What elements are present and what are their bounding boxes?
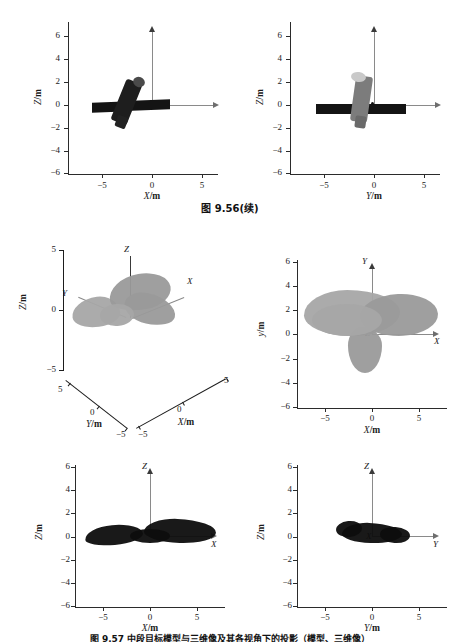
z-arrow-head-icon xyxy=(369,468,375,474)
y-tick xyxy=(286,173,290,174)
x-tick xyxy=(372,408,373,412)
panel-mid-left-3d: 5 0 −5 Z/m 5 0 −5 Y/m −5 0 5 X/m Z Y xyxy=(14,232,244,447)
y-tick-label: 2 xyxy=(268,304,290,314)
y-tick-label: −2 xyxy=(258,122,282,132)
x-tick xyxy=(103,607,104,611)
y-tick-label: 5 xyxy=(58,384,63,394)
x-tick-label: 0 xyxy=(360,612,384,622)
y-tick-label: −2 xyxy=(46,554,70,564)
z-axis-title: Z/m xyxy=(18,280,28,324)
y-tick-label: 0 xyxy=(48,531,70,541)
y-tick xyxy=(293,310,297,311)
x-tick-label: 5 xyxy=(412,180,436,190)
y-axis-title: Z/m xyxy=(256,510,266,554)
x-tick xyxy=(325,607,326,611)
y-axis-line xyxy=(75,465,76,607)
y-tick xyxy=(293,560,297,561)
y-axis-arrow-label: Y xyxy=(62,288,67,298)
y-tick-label: 2 xyxy=(270,507,292,517)
y-tick-label: 6 xyxy=(270,461,292,471)
y-tick-label: −6 xyxy=(266,401,290,411)
y-axis-title: Z/m xyxy=(33,75,43,119)
y-tick-label: 4 xyxy=(268,280,290,290)
x-tick xyxy=(324,174,325,178)
y-tick-label: −6 xyxy=(268,600,292,610)
y-axis-unit: /m xyxy=(33,89,43,100)
x-tick-label: −5 xyxy=(313,612,337,622)
y-tick xyxy=(293,583,297,584)
x-tick xyxy=(419,607,420,611)
x-axis-arrow-label: X xyxy=(434,336,440,346)
y-tick-label: 0 xyxy=(270,531,292,541)
x-tick xyxy=(152,174,153,178)
x-tick xyxy=(150,607,151,611)
y-axis-title-text: Z xyxy=(255,100,265,105)
x-tick xyxy=(202,174,203,178)
z-axis-unit: /m xyxy=(18,294,28,305)
z-arrow-head-icon xyxy=(371,26,377,32)
satellite-marker-dot xyxy=(371,102,374,105)
x-tick xyxy=(325,408,326,412)
panel-bottom-left: 6 4 2 0 −2 −4 −6 −5 0 5 Z/m X/m Z X xyxy=(30,455,230,625)
x-arrow-head-icon xyxy=(213,102,219,108)
x-axis-line xyxy=(68,174,218,175)
x-axis-arrow-label: X xyxy=(211,539,217,549)
x-tick xyxy=(182,402,185,406)
x-tick xyxy=(197,607,198,611)
z-axis-arrow-label: Z xyxy=(142,461,147,471)
y-tick-label: 0 xyxy=(268,328,290,338)
y-tick xyxy=(293,334,297,335)
y-tick-label: −4 xyxy=(268,577,292,587)
y-tick xyxy=(64,82,68,83)
y-tick xyxy=(293,537,297,538)
y-tick xyxy=(293,490,297,491)
y-tick-label: 4 xyxy=(270,484,292,494)
y-tick-label: −6 xyxy=(46,600,70,610)
point-cloud-blob xyxy=(312,304,382,336)
y-tick xyxy=(286,105,290,106)
satellite-model xyxy=(320,70,400,130)
y-tick xyxy=(71,513,75,514)
x-tick-label: −5 xyxy=(90,180,114,190)
y-tick xyxy=(71,583,75,584)
x-tick xyxy=(374,174,375,178)
y-tick xyxy=(293,606,297,607)
z-tick xyxy=(59,370,64,371)
z-tick-label: −5 xyxy=(34,364,56,374)
y-axis-title: Z/m xyxy=(34,510,44,554)
x-axis-unit: /m xyxy=(184,417,195,427)
y-tick xyxy=(64,36,68,37)
y-tick-label: −2 xyxy=(268,554,292,564)
y-tick-label: −2 xyxy=(266,353,290,363)
panel-top-right: 6 4 2 0 −2 −4 −6 −5 0 5 Z/m Y/m xyxy=(252,14,447,194)
solar-panel-right xyxy=(132,99,170,110)
y-tick xyxy=(286,128,290,129)
x-tick-label: 5 xyxy=(407,413,431,423)
x-tick-label: 0 xyxy=(138,612,162,622)
y-axis-title: Z/m xyxy=(255,75,265,119)
y-tick-label: −5 xyxy=(116,429,126,439)
figure-caption-bottom: 图 9.57 中段目标模型与三维像及其各视角下的投影（模型、三维像） xyxy=(0,632,460,642)
x-tick-label: 0 xyxy=(177,404,182,414)
y-tick xyxy=(71,490,75,491)
z-tick xyxy=(59,310,64,311)
x-axis-title: X/m xyxy=(350,425,394,435)
y-tick xyxy=(71,537,75,538)
satellite-nozzle xyxy=(354,115,367,128)
x-tick-label: −5 xyxy=(312,180,336,190)
z-tick xyxy=(59,250,64,251)
x-tick-label: 5 xyxy=(185,612,209,622)
x-tick-label: 5 xyxy=(190,180,214,190)
x-tick xyxy=(372,607,373,611)
point-cloud-blob xyxy=(99,303,134,327)
x-tick-label: 0 xyxy=(140,180,164,190)
y-tick-label: −6 xyxy=(258,167,282,177)
y-axis-title-text: y xyxy=(256,332,266,336)
y-tick xyxy=(293,467,297,468)
y-axis-title-text: Z xyxy=(34,535,44,540)
x-tick-label: 5 xyxy=(407,612,431,622)
z-arrow-head-icon xyxy=(149,26,155,32)
x-tick xyxy=(424,174,425,178)
y-tick xyxy=(293,383,297,384)
y-tick-label: −4 xyxy=(258,145,282,155)
